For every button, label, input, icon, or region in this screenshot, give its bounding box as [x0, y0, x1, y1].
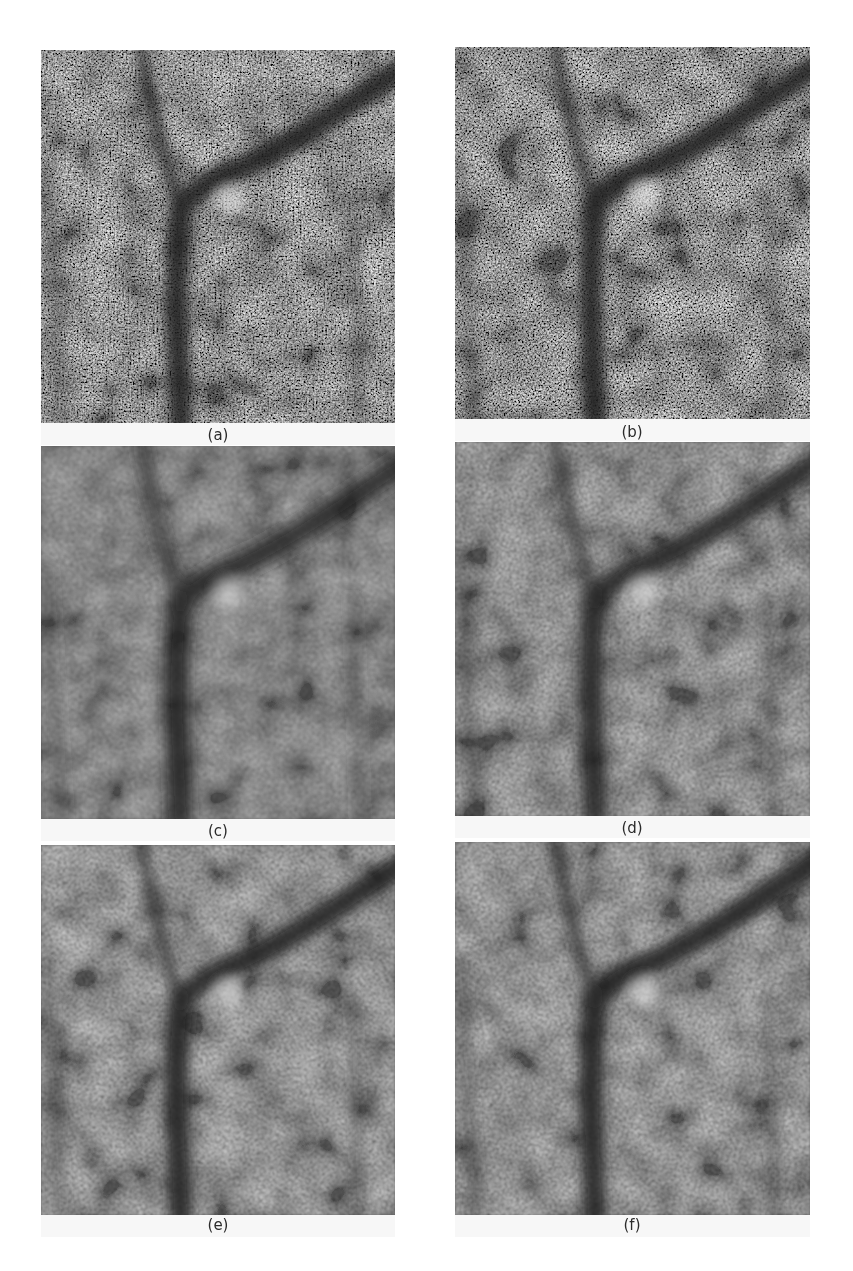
panel-caption-a: (a): [188, 426, 248, 444]
retina-image-d: [455, 442, 810, 816]
retina-image-b: [455, 47, 810, 419]
retina-image-f: [455, 842, 810, 1215]
panel-caption-c: (c): [188, 822, 248, 840]
panel-caption-b: (b): [602, 423, 662, 441]
panel-caption-d: (d): [602, 819, 662, 837]
panel-caption-e: (e): [188, 1216, 248, 1234]
retina-image-c: [41, 446, 395, 819]
panel-caption-f: (f): [602, 1216, 662, 1234]
retina-image-e: [41, 845, 395, 1215]
retina-image-a: [41, 50, 395, 423]
